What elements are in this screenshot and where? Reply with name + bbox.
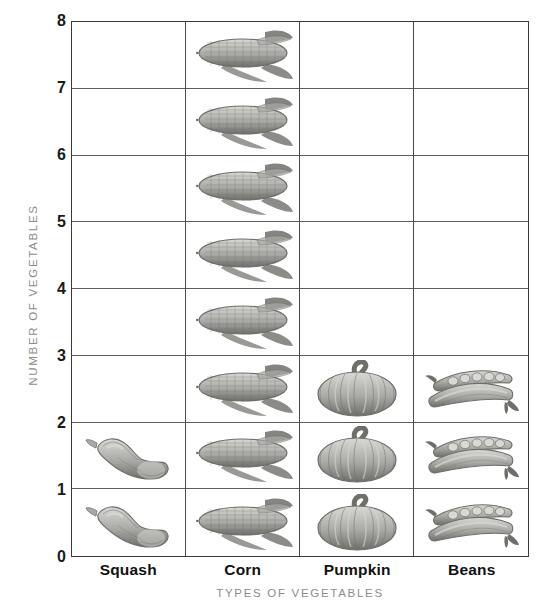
pictograph-cell-filled [72, 423, 185, 490]
pictograph-cell-filled [186, 489, 299, 556]
pumpkin-icon [300, 489, 413, 556]
pictograph-cell-empty [414, 22, 528, 89]
category-label-pumpkin: Pumpkin [300, 561, 415, 579]
pictograph-cell-empty [300, 222, 413, 289]
y-tick-1: 1 [40, 482, 66, 498]
pictograph-cell-filled [186, 156, 299, 223]
pictograph-cell-filled [186, 89, 299, 156]
pictograph-cell-filled [414, 356, 528, 423]
beans-icon [414, 356, 528, 422]
y-tick-4: 4 [40, 281, 66, 297]
corn-icon [186, 89, 299, 155]
pictograph-cell-empty [414, 289, 528, 356]
corn-icon [186, 356, 299, 422]
pictograph-cell-empty [72, 156, 185, 223]
pumpkin-icon [300, 356, 413, 422]
squash-icon [72, 489, 185, 556]
column-corn [186, 22, 300, 556]
beans-icon [414, 423, 528, 489]
squash-icon [72, 423, 185, 489]
pictograph-cell-filled [186, 22, 299, 89]
pictograph-cell-empty [300, 22, 413, 89]
pictograph-cell-empty [72, 356, 185, 423]
y-tick-6: 6 [40, 147, 66, 163]
y-axis-title: NUMBER OF VEGETABLES [27, 175, 39, 415]
pictograph-cell-empty [414, 222, 528, 289]
column-beans [414, 22, 528, 556]
corn-icon [186, 156, 299, 222]
pumpkin-icon [300, 423, 413, 489]
pictograph-cell-filled [186, 423, 299, 490]
pictograph-cell-filled [186, 222, 299, 289]
pictograph-cell-filled [300, 489, 413, 556]
x-axis-category-labels: Squash Corn Pumpkin Beans [71, 561, 529, 579]
pictograph-cell-empty [72, 89, 185, 156]
corn-icon [186, 423, 299, 489]
pictograph-cell-empty [300, 289, 413, 356]
pictograph-cell-filled [414, 489, 528, 556]
x-axis-title: TYPES OF VEGETABLES [71, 587, 529, 599]
beans-icon [414, 489, 528, 556]
pictograph-cell-empty [300, 89, 413, 156]
corn-icon [186, 489, 299, 556]
category-label-squash: Squash [71, 561, 186, 579]
pictograph-cell-empty [414, 156, 528, 223]
pictograph-cell-empty [300, 156, 413, 223]
corn-icon [186, 222, 299, 288]
pictograph-cell-empty [72, 289, 185, 356]
plot-grid [71, 21, 529, 557]
pictograph-cell-filled [72, 489, 185, 556]
y-tick-2: 2 [40, 415, 66, 431]
y-tick-3: 3 [40, 348, 66, 364]
y-tick-0: 0 [40, 549, 66, 565]
pictograph-cell-filled [186, 356, 299, 423]
pictograph-cell-empty [414, 89, 528, 156]
y-tick-5: 5 [40, 214, 66, 230]
column-pumpkin [300, 22, 414, 556]
corn-icon [186, 289, 299, 355]
pictograph-cell-empty [72, 22, 185, 89]
y-axis-tick-labels: 8 7 6 5 4 3 2 1 0 [40, 21, 66, 557]
y-tick-7: 7 [40, 80, 66, 96]
column-squash [72, 22, 186, 556]
category-label-corn: Corn [186, 561, 301, 579]
pictograph-cell-filled [300, 423, 413, 490]
pictograph-chart: NUMBER OF VEGETABLES 8 7 6 5 4 3 2 1 0 [0, 0, 548, 616]
pictograph-cell-filled [300, 356, 413, 423]
pictograph-cell-filled [414, 423, 528, 490]
pictograph-cell-empty [72, 222, 185, 289]
pictograph-cell-filled [186, 289, 299, 356]
category-label-beans: Beans [415, 561, 530, 579]
corn-icon [186, 22, 299, 88]
y-tick-8: 8 [40, 13, 66, 29]
